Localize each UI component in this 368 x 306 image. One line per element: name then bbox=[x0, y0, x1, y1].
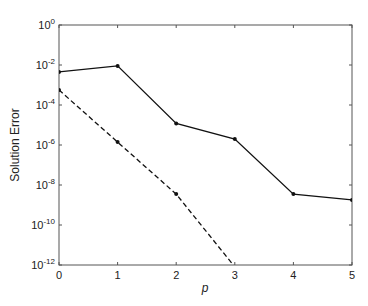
x-tick-label: 2 bbox=[173, 269, 179, 281]
data-point bbox=[291, 192, 295, 196]
chart: 01234510010-210-410-610-810-1010-12 p So… bbox=[0, 0, 368, 306]
y-tick-label: 10-6 bbox=[36, 137, 56, 151]
series-dashed bbox=[57, 88, 237, 269]
y-tick-label: 100 bbox=[38, 17, 55, 31]
x-tick-label: 4 bbox=[290, 269, 296, 281]
y-tick-label: 10-2 bbox=[36, 57, 56, 71]
x-axis-label: p bbox=[201, 281, 209, 295]
data-point bbox=[57, 88, 61, 92]
data-point bbox=[174, 121, 178, 125]
data-point bbox=[174, 192, 178, 196]
data-point bbox=[233, 137, 237, 141]
x-tick-label: 5 bbox=[349, 269, 355, 281]
data-point bbox=[57, 70, 61, 74]
x-tick-label: 0 bbox=[56, 269, 62, 281]
axes-frame bbox=[59, 25, 352, 265]
x-tick-label: 3 bbox=[232, 269, 238, 281]
series-solid bbox=[57, 64, 354, 202]
data-point bbox=[116, 140, 120, 144]
axes bbox=[59, 25, 352, 265]
data-series bbox=[57, 64, 354, 269]
x-tick-label: 1 bbox=[115, 269, 121, 281]
data-point bbox=[350, 198, 354, 202]
y-tick-label: 10-4 bbox=[36, 97, 56, 111]
data-point bbox=[116, 64, 120, 68]
y-tick-label: 10-8 bbox=[36, 177, 56, 191]
y-axis-label: Solution Error bbox=[8, 108, 22, 181]
y-tick-label: 10-12 bbox=[31, 257, 55, 271]
tick-labels: 01234510010-210-410-610-810-1010-12 bbox=[31, 17, 355, 281]
y-tick-label: 10-10 bbox=[31, 217, 55, 231]
